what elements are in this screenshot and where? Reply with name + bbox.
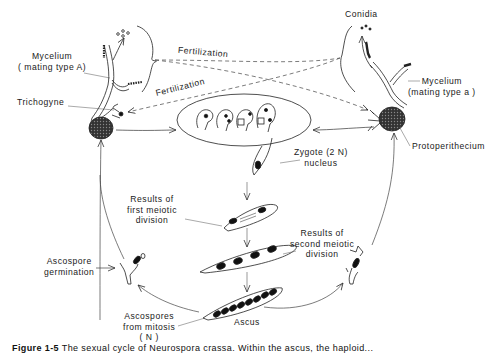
zygote-cell <box>253 138 300 175</box>
first-meiotic-label-line2: first meiotic <box>127 205 177 216</box>
figure-caption-text: The sexual cycle of Neurospora crassa. W… <box>62 343 374 353</box>
ascospore-germination-label: Ascospore germination <box>44 256 94 277</box>
mycelium-a-label: Mycelium ( mating type A) <box>18 51 86 72</box>
crozier-oval <box>177 94 311 146</box>
ascospores-mitosis-label-line1: Ascospores <box>123 311 175 322</box>
first-meiotic-label-line3: division <box>127 215 177 226</box>
mycelium-a-drawing <box>89 26 156 139</box>
figure-number: Figure 1-5 <box>12 343 59 353</box>
zygote-label: Zygote (2 N) nucleus <box>294 147 348 168</box>
first-meiotic-label-line1: Results of <box>127 194 177 205</box>
conidia-label: Conidia <box>345 9 378 20</box>
ascospores-mitosis-label: Ascospores from mitosis ( N ) <box>123 311 175 343</box>
ascospore-germination-label-line1: Ascospore <box>44 256 94 267</box>
protoperithecium-label: Protoperithecium <box>412 141 485 152</box>
mycelium-a-label-line2: ( mating type A) <box>18 62 86 73</box>
ascospore-germination-label-line2: germination <box>44 267 94 278</box>
mycelium-a-label-line1: Mycelium <box>18 51 86 62</box>
ascus-first-division <box>185 204 278 231</box>
mycelium-alpha-drawing <box>341 25 411 131</box>
ascus-label: Ascus <box>234 317 260 328</box>
second-meiotic-label-line2: second meiotic <box>290 239 354 250</box>
second-meiotic-label: Results of second meiotic division <box>290 228 354 260</box>
ascospores-mitosis-label-line3: ( N ) <box>123 332 175 343</box>
zygote-label-line1: Zygote (2 N) <box>294 147 348 158</box>
mycelium-alpha-label: Mycelium (mating type a ) <box>408 76 476 97</box>
zygote-label-line2: nucleus <box>294 158 348 169</box>
figure-caption: Figure 1-5 The sexual cycle of Neurospor… <box>12 343 373 353</box>
trichogyne-label: Trichogyne <box>17 97 64 108</box>
ascospores-mitosis-label-line2: from mitosis <box>123 322 175 333</box>
second-meiotic-label-line1: Results of <box>290 228 354 239</box>
ascus-eight-spores <box>178 288 282 326</box>
arrow-to-oval-right <box>313 127 374 130</box>
ascus-second-division <box>200 245 296 273</box>
mycelium-alpha-label-line2: (mating type a ) <box>408 87 476 98</box>
second-meiotic-label-line3: division <box>290 249 354 260</box>
mycelium-alpha-label-line1: Mycelium <box>408 76 476 87</box>
first-meiotic-label: Results of first meiotic division <box>127 194 177 226</box>
